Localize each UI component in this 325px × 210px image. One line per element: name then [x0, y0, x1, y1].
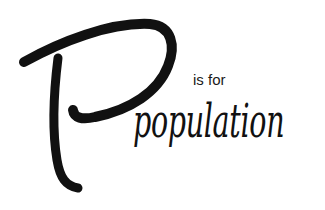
main-word: population [133, 98, 284, 144]
connector-text: is for [193, 71, 226, 88]
title-graphic: is for population [0, 0, 325, 210]
